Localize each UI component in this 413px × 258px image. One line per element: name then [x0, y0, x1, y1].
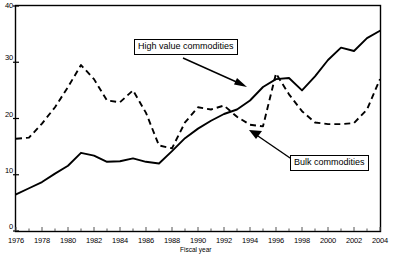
chart-container: 40 30 20 10 0 1976 1978 1980 1982 1984 1… [0, 0, 413, 258]
x-tick-label-1992: 1992 [212, 236, 236, 245]
x-tick-label-1980: 1980 [56, 236, 80, 245]
x-tick-label-2000: 2000 [316, 236, 340, 245]
x-tick-label-1986: 1986 [134, 236, 158, 245]
x-tick-label-1994: 1994 [238, 236, 262, 245]
x-tick-label-1996: 1996 [264, 236, 288, 245]
x-tick-label-1998: 1998 [290, 236, 314, 245]
x-tick-label-1982: 1982 [82, 236, 106, 245]
y-tick-label-30: 30 [0, 53, 13, 62]
x-tick-label-2004: 2004 [368, 236, 392, 245]
y-tick-label-0: 0 [0, 222, 13, 231]
x-tick-label-1978: 1978 [30, 236, 54, 245]
x-axis-title: Fiscal year [180, 246, 211, 253]
callout-high-value-commodities: High value commodities [134, 39, 238, 55]
x-tick-label-1988: 1988 [160, 236, 184, 245]
x-tick-label-1976: 1976 [4, 236, 28, 245]
callout-bulk-commodities: Bulk commodities [290, 155, 369, 171]
x-tick-label-1984: 1984 [108, 236, 132, 245]
x-tick-label-2002: 2002 [342, 236, 366, 245]
y-tick-label-20: 20 [0, 110, 13, 119]
y-tick-label-10: 10 [0, 166, 13, 175]
x-tick-label-1990: 1990 [186, 236, 210, 245]
y-tick-label-40: 40 [0, 1, 13, 10]
